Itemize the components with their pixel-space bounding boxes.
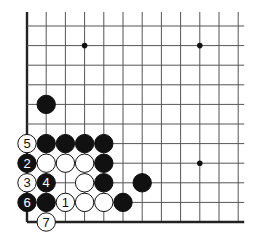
black-stone (95, 154, 113, 172)
black-stone (95, 134, 113, 152)
move-number-label: 2 (23, 156, 30, 171)
move-number-label: 4 (43, 175, 50, 190)
go-board: 5234617 (0, 0, 260, 247)
black-stone (56, 134, 74, 152)
black-stone (37, 95, 55, 113)
star-point (82, 43, 88, 49)
move-number-label: 5 (23, 136, 30, 151)
move-number-label: 7 (43, 215, 50, 230)
white-stone (37, 154, 55, 172)
black-stone (37, 134, 55, 152)
white-stone (75, 154, 93, 172)
move-number-label: 3 (23, 175, 30, 190)
star-point (197, 160, 203, 166)
white-stone (75, 193, 93, 211)
black-stone (37, 193, 55, 211)
black-stone (95, 174, 113, 192)
black-stone (75, 134, 93, 152)
move-number-label: 1 (62, 195, 69, 210)
white-stone (56, 154, 74, 172)
white-stone (95, 193, 113, 211)
black-stone (133, 174, 151, 192)
move-number-label: 6 (23, 195, 30, 210)
white-stone (75, 174, 93, 192)
star-point (197, 43, 203, 49)
black-stone (114, 193, 132, 211)
